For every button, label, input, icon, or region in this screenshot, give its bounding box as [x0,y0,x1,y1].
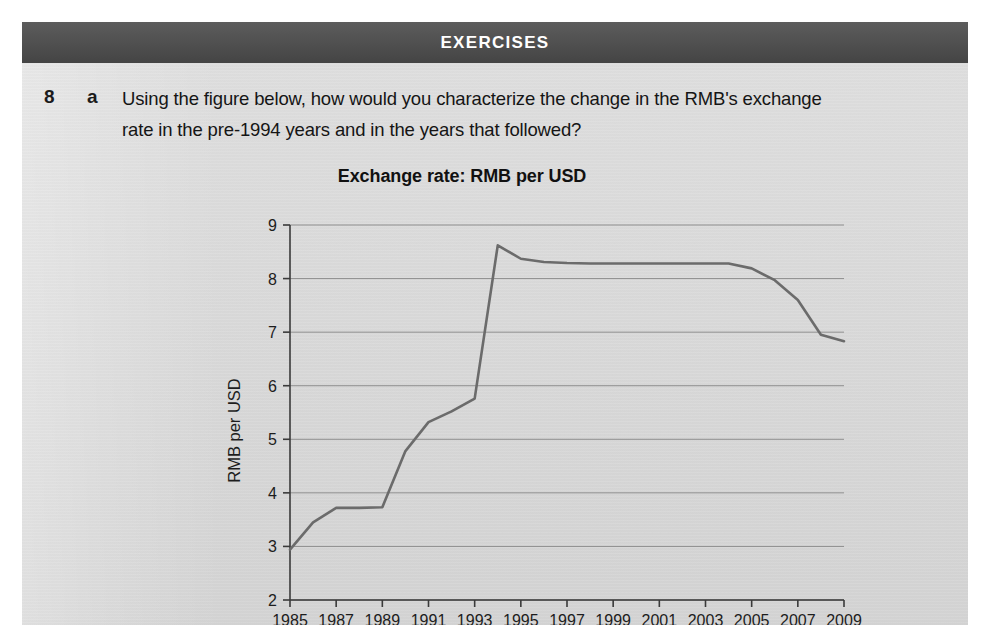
y-tick-label-7: 7 [268,324,277,341]
x-tick-label-1995: 1995 [503,612,539,625]
y-tick-label-4: 4 [268,485,277,502]
data-series-line [290,245,844,549]
textbook-page: EXERCISES 8 a Using the figure below, ho… [22,22,968,625]
exercises-header-title: EXERCISES [22,22,968,63]
y-tick-label-2: 2 [268,592,277,609]
x-tick-label-2003: 2003 [688,612,724,625]
y-tick-label-8: 8 [268,271,277,288]
x-axis: 1985198719891991199319951997199920012003… [272,600,862,625]
x-tick-label-2001: 2001 [642,612,678,625]
series-line-rmb-per-usd [290,245,844,549]
x-tick-label-1989: 1989 [365,612,401,625]
x-tick-label-1993: 1993 [457,612,493,625]
chart-canvas: 23456789 1985198719891991199319951997199… [22,148,968,625]
x-tick-label-2005: 2005 [734,612,770,625]
y-axis-title: RMB per USD [225,378,243,483]
question-part-letter: a [87,86,98,108]
y-tick-label-6: 6 [268,378,277,395]
question-number: 8 [44,86,55,108]
x-tick-label-2007: 2007 [780,612,816,625]
question-text: Using the figure below, how would you ch… [122,83,842,145]
gridlines-group [290,225,844,600]
x-tick-label-1997: 1997 [549,612,585,625]
x-tick-label-2009: 2009 [826,612,862,625]
y-tick-label-5: 5 [268,431,277,448]
y-axis-label: RMB per USD [225,378,243,483]
x-tick-label-1991: 1991 [411,612,447,625]
x-tick-label-1987: 1987 [318,612,354,625]
question-block: 8 a Using the figure below, how would yo… [22,70,968,148]
exchange-rate-chart: Exchange rate: RMB per USD 23456789 1985… [22,148,968,625]
x-tick-label-1999: 1999 [595,612,631,625]
x-tick-label-1985: 1985 [272,612,308,625]
y-tick-label-3: 3 [268,538,277,555]
y-tick-label-9: 9 [268,217,277,234]
exercises-header-bar: EXERCISES [22,22,968,63]
y-axis: 23456789 [268,217,290,609]
